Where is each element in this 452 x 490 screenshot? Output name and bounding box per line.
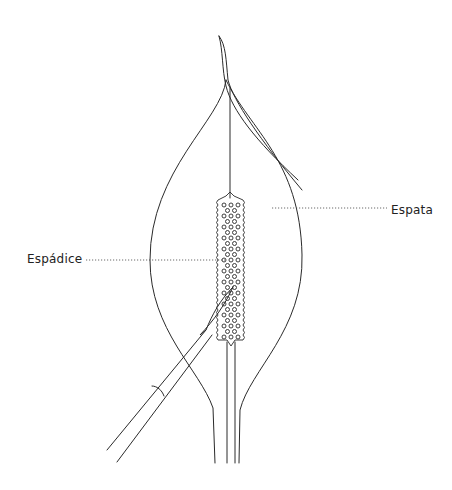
spadix-flower (229, 324, 233, 328)
spadix-flower (222, 236, 226, 240)
spadix-flower (233, 231, 237, 235)
spadix-flower (236, 280, 240, 284)
spadix-flower (226, 231, 230, 235)
spadix-flower (229, 225, 233, 229)
spadix-flower (236, 335, 240, 339)
spadix-flower (229, 280, 233, 284)
spadix-flower (236, 225, 240, 229)
brush-handle-top (107, 330, 206, 450)
spadix-flower (226, 308, 230, 312)
spadix-flower (222, 335, 226, 339)
spadix-flower (222, 280, 226, 284)
spadix-flower (236, 313, 240, 317)
diagram-canvas (0, 0, 452, 490)
spadix-flower (229, 302, 233, 306)
spadix-flower (222, 313, 226, 317)
spadix-flower (236, 291, 240, 295)
spadix-flower (222, 324, 226, 328)
spadix-flower (233, 253, 237, 257)
spadix-flower (229, 258, 233, 262)
spadix-flower (236, 302, 240, 306)
spadix-bottom (218, 340, 243, 346)
spadix-flower (236, 247, 240, 251)
spathe-label: Espata (391, 203, 433, 217)
spadix-right-edge (243, 200, 245, 340)
spadix-flower (226, 209, 230, 213)
spadix (217, 192, 245, 346)
spadix-flower (236, 269, 240, 273)
spadix-flower (226, 319, 230, 323)
brush-handle-bottom (117, 335, 212, 462)
spadix-label: Espádice (27, 252, 82, 266)
spadix-flower (222, 225, 226, 229)
spadix-flower (233, 308, 237, 312)
spadix-flower (236, 324, 240, 328)
spadix-flower (229, 247, 233, 251)
spadix-flower (226, 264, 230, 268)
spadix-flower (233, 242, 237, 246)
spadix-flower (233, 220, 237, 224)
spadix-flower (229, 269, 233, 273)
spadix-flower (233, 264, 237, 268)
spadix-flower (229, 203, 233, 207)
spathe-tip (219, 36, 302, 190)
spadix-flower (233, 319, 237, 323)
spadix-flower (226, 242, 230, 246)
spadix-flower (222, 269, 226, 273)
spadix-flower (226, 286, 230, 290)
spadix-flower (229, 313, 233, 317)
spadix-flower (233, 275, 237, 279)
spadix-left-edge (217, 200, 219, 340)
spadix-flower (236, 214, 240, 218)
spadix-flower (229, 335, 233, 339)
spadix-flower (229, 236, 233, 240)
spadix-flower (222, 291, 226, 295)
spadix-flower (222, 214, 226, 218)
spadix-flower (226, 275, 230, 279)
spadix-flower (226, 330, 230, 334)
spadix-flower (222, 203, 226, 207)
spadix-flower (226, 220, 230, 224)
brush-ferrule-band (152, 386, 164, 396)
spadix-flower (226, 253, 230, 257)
spadix-flower (233, 330, 237, 334)
spathe-outline (150, 80, 226, 463)
spathe-tip-inner (219, 36, 298, 180)
spadix-flower (233, 297, 237, 301)
spadix-flower (236, 258, 240, 262)
spadix-flower (236, 236, 240, 240)
spadix-flower (229, 214, 233, 218)
spathe-outline-right (226, 80, 302, 463)
spadix-flower (222, 247, 226, 251)
spadix-flower (236, 203, 240, 207)
spadix-flower (233, 209, 237, 213)
